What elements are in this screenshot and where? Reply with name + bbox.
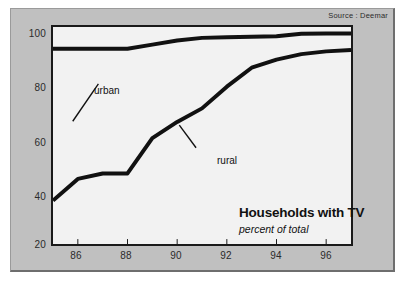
series-layer (53, 34, 351, 201)
annotation-leader-lines (73, 84, 196, 148)
y-axis-tick-label: 100 (12, 28, 46, 39)
series-label-urban: urban (94, 85, 120, 96)
y-axis-tick-label: 80 (12, 82, 46, 93)
series-line-urban (53, 34, 351, 49)
y-axis-tick-label: 40 (12, 191, 46, 202)
page-title: Households with TV (239, 205, 384, 220)
x-axis-tick-label: 96 (311, 250, 341, 261)
x-axis-tick-label: 94 (261, 250, 291, 261)
x-axis-tick-label: 90 (161, 250, 191, 261)
chart-figure: Source : Deemar 100 80 60 40 20 86 88 90… (10, 8, 395, 272)
x-axis-tick-label: 88 (111, 250, 141, 261)
series-line-rural (53, 50, 351, 201)
chart-subtitle: percent of total (239, 223, 384, 235)
plot-area: urban rural Households with TV percent o… (51, 25, 353, 246)
y-axis-tick-label: 20 (12, 239, 46, 250)
x-axis-tick-label: 86 (61, 250, 91, 261)
x-axis-tick-label: 92 (211, 250, 241, 261)
chart-title-block: Households with TV percent of total (239, 205, 384, 235)
y-axis-tick-label: 60 (12, 137, 46, 148)
series-label-rural: rural (217, 155, 237, 166)
x-axis-ticks (78, 239, 326, 244)
source-note: Source : Deemar (328, 11, 388, 20)
